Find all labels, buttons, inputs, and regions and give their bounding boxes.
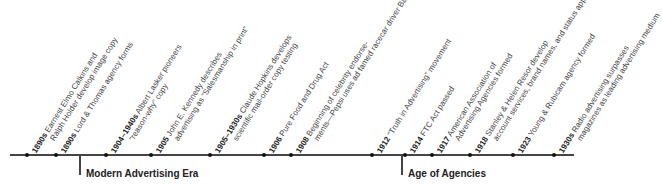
event-dot bbox=[25, 153, 29, 157]
event-dot bbox=[370, 153, 374, 157]
event-dot bbox=[104, 153, 108, 157]
event-dot bbox=[149, 153, 153, 157]
event-dot bbox=[289, 153, 293, 157]
era-marker bbox=[79, 155, 81, 175]
event-dot bbox=[208, 153, 212, 157]
event-dot bbox=[552, 153, 556, 157]
event-dot bbox=[511, 153, 515, 157]
event-dot bbox=[54, 153, 58, 157]
event-dot bbox=[403, 153, 407, 157]
event-dot bbox=[468, 153, 472, 157]
event-dot bbox=[262, 153, 266, 157]
event-dot bbox=[430, 153, 434, 157]
era-label: Modern Advertising Era bbox=[86, 168, 198, 179]
era-label: Age of Agencies bbox=[408, 168, 486, 179]
event-label: 1930s Radio advertising surpassesmagazin… bbox=[557, 7, 662, 160]
era-marker bbox=[401, 155, 403, 175]
